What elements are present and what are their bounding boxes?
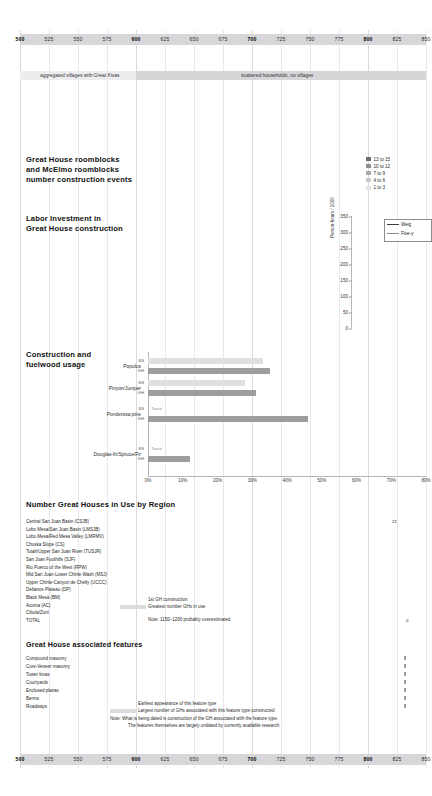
time-tick-650: 650 bbox=[190, 754, 199, 765]
feature-row-marker bbox=[404, 704, 406, 708]
gridline-725 bbox=[281, 30, 282, 768]
gridline-650 bbox=[194, 30, 195, 768]
fuelwood-series-label-GH: GH bbox=[128, 456, 144, 461]
time-tick-675: 675 bbox=[219, 754, 228, 765]
roomblocks-legend-label: 7 to 9 bbox=[374, 171, 386, 176]
gridline-850 bbox=[426, 30, 427, 768]
labor-y-tick-150: 150 bbox=[336, 278, 348, 283]
labor-title: Labor Investment in Great House construc… bbox=[26, 214, 123, 234]
roomblocks-legend-item-1: 10 to 12 bbox=[366, 163, 390, 169]
labor-y-tick-300: 300 bbox=[336, 230, 348, 235]
fuelwood-bar-GH bbox=[148, 368, 270, 374]
time-tick-525: 525 bbox=[45, 754, 54, 765]
labor-y-tick-200: 200 bbox=[336, 262, 348, 267]
roomblocks-title-line-2: and McElmo roomblocks bbox=[26, 165, 132, 175]
time-tick-650: 650 bbox=[190, 34, 199, 45]
feature-row-marker bbox=[404, 688, 406, 692]
fuelwood-title-line-1: Construction and bbox=[26, 350, 91, 360]
fuelwood-x-axis-line bbox=[148, 476, 426, 477]
time-tick-725: 725 bbox=[277, 34, 286, 45]
fuelwood-series-label-SS: SS bbox=[128, 446, 144, 451]
labor-y-tick-0: 0 bbox=[336, 326, 348, 331]
labor-title-line-2: Great House construction bbox=[26, 224, 123, 234]
region-row-label: San Juan Foothills (SJF) bbox=[26, 557, 75, 563]
fuelwood-x-tick-0%: 0% bbox=[145, 478, 152, 483]
feature-row-label: Compound masonry bbox=[26, 656, 67, 663]
legend-swatch-icon bbox=[366, 157, 371, 161]
feature-row-marker bbox=[404, 672, 406, 676]
roomblocks-legend-label: 10 to 12 bbox=[374, 164, 391, 169]
time-tick-750: 750 bbox=[306, 34, 315, 45]
region-row-label: Chuska Slope (CS) bbox=[26, 542, 65, 548]
region-row-value: 0 bbox=[406, 618, 408, 623]
time-tick-700: 700 bbox=[248, 754, 257, 765]
time-tick-550: 550 bbox=[74, 34, 83, 45]
region-row-label: Black Mesa (BM) bbox=[26, 595, 60, 601]
time-tick-625: 625 bbox=[161, 34, 170, 45]
feature-row-marker bbox=[404, 656, 406, 660]
legend-swatch-icon bbox=[366, 178, 371, 182]
labor-y-tick-250: 250 bbox=[336, 246, 348, 251]
region-row-label: Lobo Mesa/Red Mesa Valley (LMRMV) bbox=[26, 534, 104, 540]
gridline-675 bbox=[223, 30, 224, 768]
time-tick-775: 775 bbox=[335, 34, 344, 45]
roomblocks-legend: 13 to 1510 to 127 to 94 to 61 to 3 bbox=[366, 156, 390, 191]
features-key-label: Earliest appearance of this feature type bbox=[138, 701, 216, 708]
time-tick-525: 525 bbox=[45, 34, 54, 45]
gridline-700 bbox=[252, 30, 253, 768]
region-row-label: Defiance Plateau (DP) bbox=[26, 587, 71, 593]
time-tick-500: 500 bbox=[16, 34, 25, 45]
feature-row-label: Courtyards bbox=[26, 680, 48, 687]
labor-y-tick-100: 100 bbox=[336, 294, 348, 299]
legend-swatch-icon bbox=[366, 186, 371, 190]
roomblocks-title: Great House roomblocks and McElmo roombl… bbox=[26, 155, 132, 186]
gridline-800 bbox=[368, 30, 369, 768]
fuelwood-x-tick-40%: 40% bbox=[282, 478, 291, 483]
time-tick-725: 725 bbox=[277, 754, 286, 765]
bottom-time-axis: 5005255505756006256506757007257507758008… bbox=[20, 754, 426, 765]
legend-line-icon bbox=[387, 224, 399, 225]
roomblocks-legend-label: 1 to 3 bbox=[374, 185, 386, 190]
feature-row-marker bbox=[404, 680, 406, 684]
labor-legend-item-0: Weig bbox=[385, 220, 431, 229]
time-tick-700: 700 bbox=[248, 34, 257, 45]
region-row-label: Mid San Juan-Lower Chinle Wash (MSJ) bbox=[26, 572, 107, 578]
feature-row-label: Tower kivas bbox=[26, 672, 50, 679]
fuelwood-x-tick-30%: 30% bbox=[248, 478, 257, 483]
regions-note: Note: 1150–1200 probably overestimated bbox=[148, 617, 230, 624]
time-tick-825: 825 bbox=[393, 34, 402, 45]
regions-key-label: 1st GH construction bbox=[148, 597, 188, 604]
labor-legend-item-1: Five-y bbox=[385, 229, 431, 238]
fuelwood-x-tick-70%: 70% bbox=[387, 478, 396, 483]
fuelwood-trace-label: Trace bbox=[151, 406, 162, 412]
legend-swatch-icon bbox=[366, 164, 371, 168]
regions-key-swatch-icon bbox=[120, 605, 146, 609]
feature-row-label: Roadways bbox=[26, 704, 47, 711]
gridline-750 bbox=[310, 30, 311, 768]
settlement-band-label-0: aggregated villages with Great Kivas bbox=[40, 71, 119, 80]
legend-line-icon bbox=[387, 233, 399, 234]
time-tick-575: 575 bbox=[103, 34, 112, 45]
fuelwood-bar-GH bbox=[148, 390, 256, 396]
time-tick-600: 600 bbox=[132, 754, 141, 765]
roomblocks-legend-label: 13 to 15 bbox=[374, 157, 391, 162]
fuelwood-bar-SS bbox=[148, 380, 245, 386]
regions-key-label: Greatest number GHs in use bbox=[148, 604, 205, 611]
fuelwood-series-label-GH: GH bbox=[128, 390, 144, 395]
feature-row-marker bbox=[404, 696, 406, 700]
time-tick-800: 800 bbox=[364, 34, 373, 45]
roomblocks-legend-item-4: 1 to 3 bbox=[366, 184, 390, 190]
region-row-label: Lobo Mesa/San Juan Basin (LMSJB) bbox=[26, 527, 100, 533]
time-tick-850: 850 bbox=[422, 34, 431, 45]
gridline-575 bbox=[107, 30, 108, 768]
fuelwood-trace-label: Trace bbox=[151, 446, 162, 452]
labor-legend-label: Weig bbox=[401, 222, 411, 227]
features-key-swatch-icon bbox=[110, 709, 136, 713]
feature-row-marker bbox=[404, 664, 406, 668]
gridline-625 bbox=[165, 30, 166, 768]
fuelwood-series-label-GH: GH bbox=[128, 416, 144, 421]
gridline-500 bbox=[20, 30, 21, 768]
time-tick-825: 825 bbox=[393, 754, 402, 765]
